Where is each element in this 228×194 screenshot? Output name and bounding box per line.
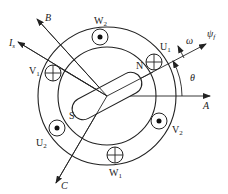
axis-c-label: C xyxy=(61,180,68,191)
coil-w2-label: W2 xyxy=(94,15,107,28)
dot-icon xyxy=(157,119,162,124)
coil-v1 xyxy=(45,65,61,81)
coil-w2 xyxy=(92,29,108,45)
coil-w1-label: W1 xyxy=(109,167,122,180)
coil-v2 xyxy=(151,113,167,129)
dot-icon xyxy=(98,35,103,40)
south-pole-label: S xyxy=(69,110,75,121)
coil-u1-label: U1 xyxy=(160,41,171,54)
motor-diagram: A B C Is ψf ω θ N S W2 U1 V2 W1 U2 V1 xyxy=(0,0,228,194)
north-pole-label: N xyxy=(136,60,143,71)
coil-u2-label: U2 xyxy=(36,137,47,150)
coil-u2 xyxy=(49,120,65,136)
current-label: Is xyxy=(8,37,15,50)
omega-label: ω xyxy=(186,35,193,46)
dot-icon xyxy=(55,126,60,131)
theta-label: θ xyxy=(190,72,195,83)
flux-label: ψf xyxy=(207,28,216,41)
axis-a-label: A xyxy=(202,100,210,111)
axis-b-label: B xyxy=(45,12,51,23)
coil-v1-label: V1 xyxy=(29,65,40,78)
coil-w1 xyxy=(107,147,123,163)
theta-arc xyxy=(173,61,182,96)
omega-arrow xyxy=(178,46,184,58)
coil-v2-label: V2 xyxy=(172,124,183,137)
coil-u1 xyxy=(146,54,162,70)
